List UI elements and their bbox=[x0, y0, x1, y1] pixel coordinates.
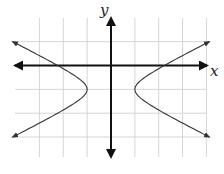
y-axis-label: y bbox=[99, 1, 109, 19]
hyperbola-graph: y x bbox=[0, 0, 224, 174]
x-axis-label: x bbox=[210, 62, 219, 80]
coordinate-axes bbox=[15, 18, 207, 157]
